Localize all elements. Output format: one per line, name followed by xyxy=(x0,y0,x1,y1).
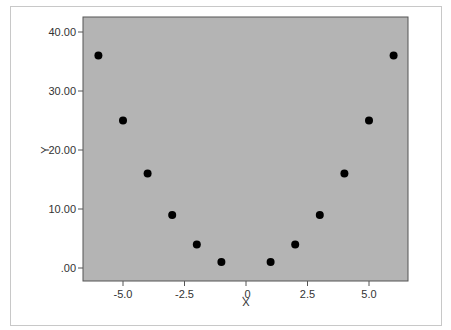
x-tick-label: 2.5 xyxy=(300,288,315,300)
y-tick-label: 40.00 xyxy=(48,26,76,38)
y-axis-title: Y xyxy=(39,146,51,154)
data-point xyxy=(94,52,102,60)
y-tick-label: 10.00 xyxy=(48,203,76,215)
y-axis: .0010.0020.0030.0040.00 xyxy=(48,26,83,274)
data-point xyxy=(119,117,127,125)
y-tick-label: 30.00 xyxy=(48,85,76,97)
data-point xyxy=(193,240,201,248)
data-point xyxy=(390,52,398,60)
plot-area xyxy=(83,17,408,281)
data-point xyxy=(340,170,348,178)
data-point xyxy=(267,258,275,266)
x-tick-label: -2.5 xyxy=(175,288,194,300)
data-point xyxy=(291,240,299,248)
data-point xyxy=(316,211,324,219)
scatter-chart: .0010.0020.0030.0040.00 -5.0-2.5.02.55.0… xyxy=(0,0,451,330)
data-point xyxy=(217,258,225,266)
data-point xyxy=(144,170,152,178)
y-tick-label: 20.00 xyxy=(48,144,76,156)
x-axis-title: X xyxy=(242,296,250,308)
y-tick-label: .00 xyxy=(61,262,76,274)
data-point xyxy=(168,211,176,219)
data-point xyxy=(365,117,373,125)
x-tick-label: 5.0 xyxy=(361,288,376,300)
x-tick-label: -5.0 xyxy=(114,288,133,300)
